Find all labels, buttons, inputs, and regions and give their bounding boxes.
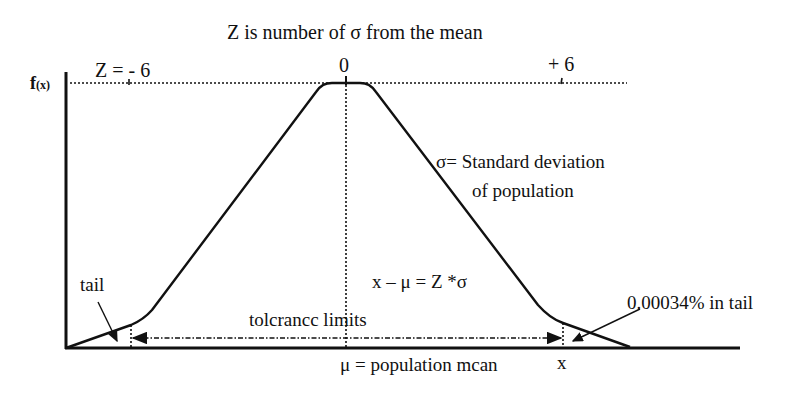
tick-label-zero: 0: [339, 55, 349, 75]
tick-label-plus-6: + 6: [548, 54, 574, 74]
tail-right-label: 0.00034% in tail: [627, 293, 753, 312]
tail-right-pointer: [573, 309, 640, 341]
tolerance-limits-label: tolcrancc limits: [249, 310, 367, 329]
sigma-definition-line1: σ= Standard deviation: [436, 152, 605, 171]
y-axis-label-sub: (x): [36, 78, 50, 92]
population-mean-label: μ = population mcan: [340, 355, 498, 374]
y-axis-label: f(x): [30, 74, 50, 92]
tick-plus-6: [561, 78, 562, 84]
z-formula: x – μ = Z *σ: [372, 272, 467, 291]
sigma-definition-line2: of population: [472, 181, 574, 200]
tick-label-minus-6: Z = - 6: [95, 60, 150, 80]
x-value-label: x: [557, 353, 567, 372]
diagram-title: Z is number of σ from the mean: [227, 22, 483, 42]
tail-left-label: tail: [80, 275, 104, 294]
